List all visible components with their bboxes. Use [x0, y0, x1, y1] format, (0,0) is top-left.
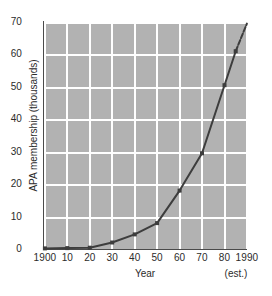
gridline-horizontal	[44, 54, 246, 56]
y-axis-spine	[43, 21, 44, 250]
y-tick-label: 10	[0, 212, 22, 222]
gridline-vertical	[156, 22, 158, 249]
y-tick-label: 0	[0, 244, 22, 254]
x-tick-label: 1990	[227, 253, 267, 263]
gridline-horizontal	[44, 184, 246, 186]
y-tick-label: 30	[0, 147, 22, 157]
chart-figure: 70 60 50 40 30 20 10 0 1900 10 20 30 40 …	[0, 0, 272, 296]
gridline-vertical	[224, 22, 226, 249]
x-axis-estimate-note: (est.)	[206, 268, 266, 279]
plot-area	[44, 22, 246, 249]
gridline-horizontal	[44, 217, 246, 219]
gridline-vertical	[44, 22, 46, 249]
gridline-horizontal	[44, 119, 246, 121]
gridline-vertical	[111, 22, 113, 249]
gridline-horizontal	[44, 152, 246, 154]
x-axis-spine	[43, 249, 247, 250]
gridline-vertical	[179, 22, 181, 249]
y-tick-label: 40	[0, 114, 22, 124]
y-tick-label: 70	[0, 17, 22, 27]
y-tick-label: 50	[0, 82, 22, 92]
y-tick-label: 60	[0, 49, 22, 59]
gridline-vertical	[89, 22, 91, 249]
gridline-horizontal	[44, 22, 246, 24]
gridline-horizontal	[44, 87, 246, 89]
gridline-vertical	[134, 22, 136, 249]
gridline-vertical	[66, 22, 68, 249]
gridline-vertical	[201, 22, 203, 249]
y-axis-label: APA membership (thousands)	[28, 31, 39, 221]
y-tick-label: 20	[0, 179, 22, 189]
